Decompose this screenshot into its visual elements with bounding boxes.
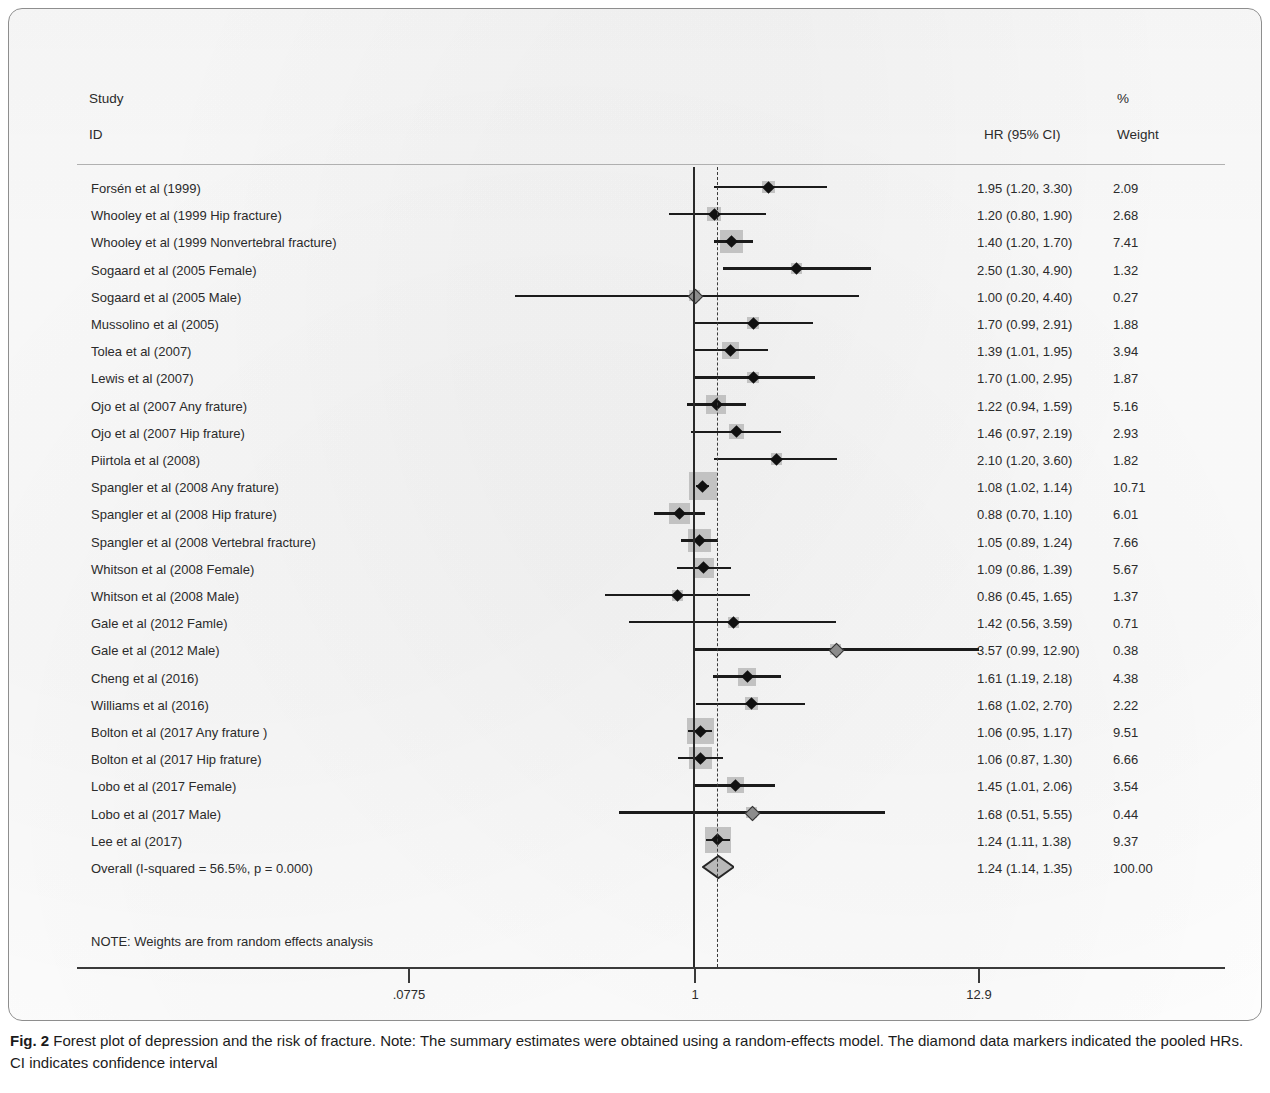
table-row: Lee et al (2017)1.24 (1.11, 1.38)9.37 <box>9 830 1262 857</box>
table-row: Sogaard et al (2005 Male)1.00 (0.20, 4.4… <box>9 286 1262 313</box>
hr-value: 0.88 (0.70, 1.10) <box>977 507 1107 522</box>
caption-label: Fig. 2 <box>10 1032 49 1049</box>
axis-tick-label: 12.9 <box>966 987 991 1002</box>
study-label: Sogaard et al (2005 Male) <box>91 290 241 305</box>
table-row: Tolea et al (2007)1.39 (1.01, 1.95)3.94 <box>9 340 1262 367</box>
study-label: Gale et al (2012 Famle) <box>91 616 228 631</box>
column-header-id: ID <box>89 127 103 142</box>
weight-value: 1.32 <box>1113 263 1175 278</box>
study-label: Spangler et al (2008 Any frature) <box>91 480 279 495</box>
hr-value: 1.20 (0.80, 1.90) <box>977 208 1107 223</box>
table-row: Bolton et al (2017 Any frature )1.06 (0.… <box>9 721 1262 748</box>
hr-value: 0.86 (0.45, 1.65) <box>977 589 1107 604</box>
figure-caption: Fig. 2 Forest plot of depression and the… <box>10 1030 1258 1074</box>
weight-value: 4.38 <box>1113 671 1175 686</box>
study-label: Lewis et al (2007) <box>91 371 194 386</box>
null-reference-line <box>693 167 695 967</box>
weight-value: 7.41 <box>1113 235 1175 250</box>
study-label: Gale et al (2012 Male) <box>91 643 220 658</box>
hr-value: 1.46 (0.97, 2.19) <box>977 426 1107 441</box>
table-row: Whooley et al (1999 Hip fracture)1.20 (0… <box>9 204 1262 231</box>
study-label: Spangler et al (2008 Hip frature) <box>91 507 277 522</box>
hr-value: 1.09 (0.86, 1.39) <box>977 562 1107 577</box>
table-row: Whitson et al (2008 Male)0.86 (0.45, 1.6… <box>9 585 1262 612</box>
hr-value: 2.50 (1.30, 4.90) <box>977 263 1107 278</box>
weight-value: 0.27 <box>1113 290 1175 305</box>
table-row: Spangler et al (2008 Vertebral fracture)… <box>9 531 1262 558</box>
table-row: Whitson et al (2008 Female)1.09 (0.86, 1… <box>9 558 1262 585</box>
study-label: Whooley et al (1999 Nonvertebral fractur… <box>91 235 337 250</box>
study-label: Whitson et al (2008 Female) <box>91 562 254 577</box>
column-header-study: Study <box>89 91 124 106</box>
study-label: Tolea et al (2007) <box>91 344 191 359</box>
hr-value: 1.40 (1.20, 1.70) <box>977 235 1107 250</box>
study-label: Overall (I-squared = 56.5%, p = 0.000) <box>91 861 313 876</box>
study-label: Lobo et al (2017 Male) <box>91 807 221 822</box>
weight-value: 1.82 <box>1113 453 1175 468</box>
table-row: Ojo et al (2007 Hip frature)1.46 (0.97, … <box>9 422 1262 449</box>
weight-value: 7.66 <box>1113 535 1175 550</box>
hr-value: 1.70 (1.00, 2.95) <box>977 371 1107 386</box>
study-label: Bolton et al (2017 Hip frature) <box>91 752 262 767</box>
weight-value: 10.71 <box>1113 480 1175 495</box>
caption-body: Forest plot of depression and the risk o… <box>10 1032 1243 1071</box>
figure-card: Study ID HR (95% CI) % Weight Forsén et … <box>8 8 1262 1021</box>
column-header-percent: % <box>1117 91 1129 106</box>
weight-value: 1.37 <box>1113 589 1175 604</box>
table-row: Lobo et al (2017 Male)1.68 (0.51, 5.55)0… <box>9 803 1262 830</box>
hr-value: 1.45 (1.01, 2.06) <box>977 779 1107 794</box>
weight-value: 2.93 <box>1113 426 1175 441</box>
study-label: Spangler et al (2008 Vertebral fracture) <box>91 535 316 550</box>
hr-value: 1.05 (0.89, 1.24) <box>977 535 1107 550</box>
study-label: Lobo et al (2017 Female) <box>91 779 236 794</box>
hr-value: 2.10 (1.20, 3.60) <box>977 453 1107 468</box>
study-label: Sogaard et al (2005 Female) <box>91 263 256 278</box>
weights-note: NOTE: Weights are from random effects an… <box>91 934 373 949</box>
weight-value: 2.22 <box>1113 698 1175 713</box>
table-row: Gale et al (2012 Male)3.57 (0.99, 12.90)… <box>9 639 1262 666</box>
table-row: Cheng et al (2016)1.61 (1.19, 2.18)4.38 <box>9 667 1262 694</box>
hr-value: 1.22 (0.94, 1.59) <box>977 399 1107 414</box>
header-divider <box>77 164 1225 165</box>
table-row: Bolton et al (2017 Hip frature)1.06 (0.8… <box>9 748 1262 775</box>
table-row: Lewis et al (2007)1.70 (1.00, 2.95)1.87 <box>9 367 1262 394</box>
axis-line <box>77 967 1225 969</box>
axis-tick-label: 1 <box>691 987 698 1002</box>
weight-value: 9.37 <box>1113 834 1175 849</box>
weight-value: 1.87 <box>1113 371 1175 386</box>
study-label: Lee et al (2017) <box>91 834 182 849</box>
hr-value: 1.06 (0.87, 1.30) <box>977 752 1107 767</box>
hr-value: 1.68 (0.51, 5.55) <box>977 807 1107 822</box>
hr-value: 1.61 (1.19, 2.18) <box>977 671 1107 686</box>
study-label: Mussolino et al (2005) <box>91 317 219 332</box>
weight-value: 3.94 <box>1113 344 1175 359</box>
study-label: Williams et al (2016) <box>91 698 209 713</box>
weight-value: 9.51 <box>1113 725 1175 740</box>
weight-value: 6.01 <box>1113 507 1175 522</box>
hr-value: 1.00 (0.20, 4.40) <box>977 290 1107 305</box>
study-label: Whitson et al (2008 Male) <box>91 589 239 604</box>
axis-tick <box>694 969 695 983</box>
table-row: Piirtola et al (2008)2.10 (1.20, 3.60)1.… <box>9 449 1262 476</box>
table-row: Lobo et al (2017 Female)1.45 (1.01, 2.06… <box>9 775 1262 802</box>
axis-tick <box>408 969 409 983</box>
hr-value: 1.39 (1.01, 1.95) <box>977 344 1107 359</box>
hr-value: 1.42 (0.56, 3.59) <box>977 616 1107 631</box>
study-label: Whooley et al (1999 Hip fracture) <box>91 208 282 223</box>
study-label: Forsén et al (1999) <box>91 181 201 196</box>
weight-value: 3.54 <box>1113 779 1175 794</box>
weight-value: 100.00 <box>1113 861 1175 876</box>
hr-value: 1.95 (1.20, 3.30) <box>977 181 1107 196</box>
table-row: Ojo et al (2007 Any frature)1.22 (0.94, … <box>9 395 1262 422</box>
hr-value: 1.06 (0.95, 1.17) <box>977 725 1107 740</box>
weight-value: 6.66 <box>1113 752 1175 767</box>
hr-value: 3.57 (0.99, 12.90) <box>977 643 1107 658</box>
table-row: Mussolino et al (2005)1.70 (0.99, 2.91)1… <box>9 313 1262 340</box>
hr-value: 1.24 (1.14, 1.35) <box>977 861 1107 876</box>
weight-value: 5.16 <box>1113 399 1175 414</box>
axis-tick-label: .0775 <box>393 987 426 1002</box>
table-row: Sogaard et al (2005 Female)2.50 (1.30, 4… <box>9 259 1262 286</box>
study-label: Piirtola et al (2008) <box>91 453 200 468</box>
overall-row: Overall (I-squared = 56.5%, p = 0.000)1.… <box>9 857 1262 884</box>
table-row: Whooley et al (1999 Nonvertebral fractur… <box>9 231 1262 258</box>
